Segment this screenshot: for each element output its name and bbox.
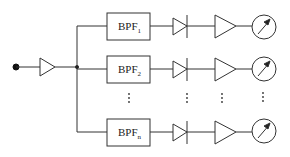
svg-text:BPFn: BPFn <box>118 126 142 141</box>
ellipsis-dots <box>128 92 264 103</box>
diode-icon <box>173 61 187 78</box>
bpf-2-label: BPF <box>118 63 138 75</box>
input-amplifier-icon <box>40 58 55 76</box>
svg-text:BPF2: BPF2 <box>118 63 142 78</box>
filter-bank-diagram: BPF1 BPF2 BPFn <box>0 0 290 157</box>
bpf-1-label: BPF <box>118 20 138 32</box>
amplifier-icon <box>215 15 236 38</box>
diode-icon <box>173 18 187 35</box>
svg-text:BPF1: BPF1 <box>118 20 142 35</box>
bpf-n-label: BPF <box>118 126 138 138</box>
diode-icon <box>173 124 187 141</box>
amplifier-icon <box>215 58 236 81</box>
amplifier-icon <box>215 121 236 144</box>
